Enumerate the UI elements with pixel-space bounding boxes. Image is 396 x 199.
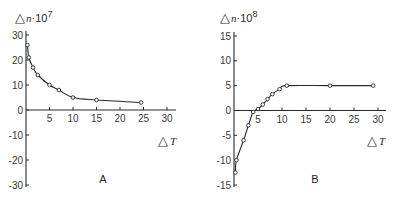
y-tick-label: -10 [217,155,232,166]
data-point [285,84,289,88]
y-tick-label: 0 [17,105,23,116]
x-tick-label: 30 [372,114,384,125]
x-tick-label: 10 [276,114,288,125]
data-point [27,56,31,60]
y-tick-label: 0 [225,105,231,116]
y-tick-label: 20 [12,55,24,66]
data-point [278,87,282,91]
x-tick-label: 20 [114,113,126,124]
y-tick-label: -5 [222,130,231,141]
data-point [266,97,270,101]
data-point [95,98,99,102]
x-tick-label: 30 [161,113,173,124]
y-tick-label: -10 [9,130,24,141]
data-point [256,107,260,111]
data-point [26,43,30,47]
y-tick-label: 15 [220,31,232,42]
x-tick-label: 15 [91,113,103,124]
chart-b: 151050-5-10-1551015202530△n·108△TB [217,9,386,191]
y-tick-label: 5 [225,80,231,91]
x-tick-label: 15 [300,114,312,125]
y-tick-label: 10 [220,55,232,66]
data-curve [27,45,141,103]
data-point [371,84,375,88]
data-point [36,73,40,77]
data-point [242,139,246,143]
y-axis-title: △n·108 [220,9,257,25]
data-point [48,83,52,87]
y-tick-label: -15 [217,180,232,191]
x-tick-label: 10 [67,113,79,124]
x-tick-label: 5 [255,114,261,125]
x-axis-title: △T [158,133,177,148]
x-axis-title: △T [367,133,386,148]
x-tick-label: 25 [138,113,150,124]
figure: 3020100-10-20-3051015202530△n·107△TA 151… [0,0,396,199]
y-tick-label: 30 [12,30,24,41]
data-point [31,66,35,70]
panel-label: B [311,173,318,185]
data-point [139,101,143,105]
y-tick-label: -20 [9,155,24,166]
chart-a: 3020100-10-20-3051015202530△n·107△TA [9,9,177,191]
data-point [71,96,75,100]
data-point [235,158,239,162]
data-curve [235,85,373,172]
data-point [247,124,251,128]
y-axis-title: △n·107 [15,9,52,25]
data-point [251,110,255,114]
data-point [328,84,332,88]
x-tick-label: 5 [47,113,53,124]
data-point [271,92,275,96]
x-tick-label: 20 [324,114,336,125]
data-point [57,88,61,92]
data-point [234,171,238,175]
panel-label: A [99,173,107,185]
x-tick-label: 25 [348,114,360,125]
y-tick-label: 10 [12,80,24,91]
data-point [261,103,265,107]
y-tick-label: -30 [9,180,24,191]
